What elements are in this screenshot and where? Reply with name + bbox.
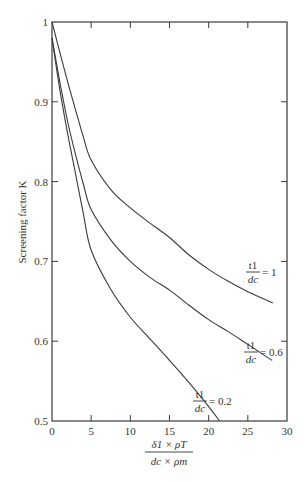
annotation-denominator: dc	[246, 353, 257, 365]
curves	[52, 22, 273, 421]
y-ticks: 0.50.60.70.80.91	[34, 16, 287, 427]
annotation-t1-dc-0-6: t1dc= 0.6	[244, 339, 283, 365]
annotation-value: = 1	[262, 266, 276, 278]
y-tick-label: 0.5	[34, 415, 48, 427]
annotation-numerator: t1	[247, 339, 256, 351]
curve-t1-dc-0-6	[52, 38, 272, 360]
annotation-denominator: dc	[195, 402, 206, 414]
chart: 051015202530 0.50.60.70.80.91 Screening …	[0, 0, 305, 482]
y-tick-label: 0.7	[34, 255, 48, 267]
x-tick-label: 5	[88, 425, 94, 437]
x-axis-title-numerator: δ1 × ρT	[152, 438, 188, 450]
y-tick-label: 0.8	[34, 176, 48, 188]
annotation-value: = 0.2	[209, 395, 232, 407]
annotation-t1-dc-0-2: t1dc= 0.2	[193, 388, 232, 414]
x-tick-label: 0	[49, 425, 55, 437]
x-tick-label: 30	[282, 425, 294, 437]
y-tick-label: 1	[43, 16, 49, 28]
x-tick-label: 10	[125, 425, 137, 437]
annotation-t1-dc-1: t1dc= 1	[246, 259, 276, 285]
curve-annotations: t1dc= 1t1dc= 0.6t1dc= 0.2	[193, 259, 283, 414]
annotation-numerator: t1	[196, 388, 205, 400]
y-tick-label: 0.9	[34, 96, 48, 108]
x-tick-label: 15	[164, 425, 176, 437]
x-axis-title: δ1 × ρT dc × ρm	[145, 438, 193, 467]
annotation-value: = 0.6	[260, 346, 283, 358]
curve-t1-dc-0-2	[52, 38, 220, 421]
x-tick-label: 20	[203, 425, 215, 437]
x-axis-title-denominator: dc × ρm	[151, 455, 188, 467]
annotation-numerator: t1	[249, 259, 258, 271]
curve-t1-dc-1	[52, 22, 273, 303]
x-tick-label: 25	[242, 425, 254, 437]
annotation-denominator: dc	[248, 273, 259, 285]
y-axis-title: Screening factor K	[16, 180, 28, 263]
y-tick-label: 0.6	[34, 335, 48, 347]
